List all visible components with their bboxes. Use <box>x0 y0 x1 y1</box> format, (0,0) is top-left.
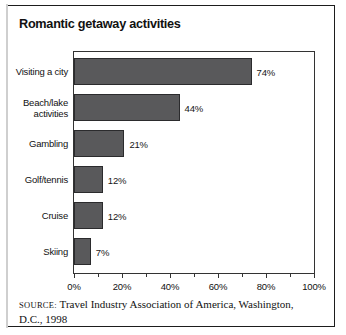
bar-value-label: 12% <box>108 210 126 221</box>
x-tick-label: 100% <box>294 281 334 292</box>
category-label: Golf/tennis <box>0 166 68 193</box>
category-label-text: Visiting a city <box>0 66 68 77</box>
x-tick-minor <box>98 273 99 277</box>
x-tick-major <box>218 273 219 278</box>
x-tick-major <box>314 273 315 278</box>
bar-row: 12% <box>74 166 314 193</box>
bar <box>74 130 124 157</box>
bar-row: 21% <box>74 130 314 157</box>
source-label: Source: <box>19 300 57 310</box>
category-label: Skiing <box>0 238 68 265</box>
source-note: Source: Travel Industry Association of A… <box>19 298 319 326</box>
x-tick-label: 40% <box>150 281 190 292</box>
bar-row: 44% <box>74 94 314 121</box>
x-tick-minor <box>146 273 147 277</box>
category-label-text: Golf/tennis <box>0 174 68 185</box>
x-tick-minor <box>194 273 195 277</box>
x-tick-minor <box>242 273 243 277</box>
x-tick-label: 60% <box>198 281 238 292</box>
bar-value-label: 7% <box>96 246 109 257</box>
x-tick-major <box>170 273 171 278</box>
category-label: Cruise <box>0 202 68 229</box>
category-label-text: Gambling <box>0 138 68 149</box>
x-tick-label: 20% <box>102 281 142 292</box>
x-axis-ticks <box>74 273 315 279</box>
bar <box>74 202 103 229</box>
plot-area: Visiting a cityBeach/lake activitiesGamb… <box>73 51 315 274</box>
category-label: Beach/lake activities <box>0 94 68 121</box>
x-tick-major <box>266 273 267 278</box>
x-tick-label: 80% <box>246 281 286 292</box>
bar-row: 7% <box>74 238 314 265</box>
category-label-text: Cruise <box>0 210 68 221</box>
page-title: Romantic getaway activities <box>19 16 181 31</box>
category-label: Visiting a city <box>0 58 68 85</box>
bar <box>74 94 180 121</box>
x-axis-tick-labels: 0%20%40%60%80%100% <box>54 281 335 295</box>
bar-value-label: 12% <box>108 174 126 185</box>
x-tick-label: 0% <box>54 281 94 292</box>
bar-series: 74%44%21%12%12%7% <box>74 52 314 273</box>
bar <box>74 166 103 193</box>
source-text: Travel Industry Association of America, … <box>19 298 294 325</box>
bar-value-label: 44% <box>185 102 203 113</box>
x-tick-major <box>122 273 123 278</box>
category-axis-labels: Visiting a cityBeach/lake activitiesGamb… <box>0 52 68 273</box>
bar-row: 74% <box>74 58 314 85</box>
x-tick-minor <box>290 273 291 277</box>
category-label: Gambling <box>0 130 68 157</box>
bar <box>74 58 252 85</box>
x-tick-major <box>74 273 75 278</box>
bar-value-label: 74% <box>257 66 275 77</box>
figure-frame: Romantic getaway activities Visiting a c… <box>7 5 335 327</box>
bar-value-label: 21% <box>129 138 147 149</box>
category-label-text: Skiing <box>0 246 68 257</box>
bar-row: 12% <box>74 202 314 229</box>
category-label-text: Beach/lake activities <box>0 97 68 119</box>
bar <box>74 238 91 265</box>
